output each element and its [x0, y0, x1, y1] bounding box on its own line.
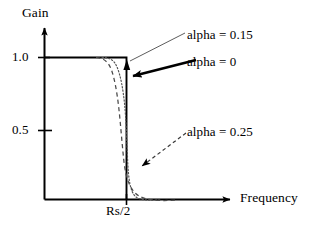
leader-line-group — [123, 33, 196, 166]
series-alpha-025 — [96, 58, 175, 201]
x-axis-title: Frequency — [240, 191, 298, 205]
series-alpha-015 — [102, 58, 160, 201]
figure-raised-cosine-gain: Gain Frequency 1.0 0.5 Rs/2 alpha = 0.15… — [0, 0, 326, 229]
x-tick-label-rs2: Rs/2 — [106, 204, 130, 217]
marker-arrowhead-wall-top — [123, 60, 130, 71]
annotation-alpha-0: alpha = 0 — [187, 55, 236, 68]
y-tick-label-1.0: 1.0 — [12, 50, 29, 63]
leader-alpha-015 — [130, 33, 185, 61]
annotation-alpha-025: alpha = 0.25 — [187, 125, 253, 138]
curve-alpha-015 — [102, 58, 160, 201]
annotation-alpha-015: alpha = 0.15 — [187, 28, 253, 41]
y-tick-label-0.5: 0.5 — [12, 123, 29, 136]
tick-mark-group — [38, 58, 127, 206]
y-axis-title: Gain — [22, 6, 49, 20]
leader-arrow-alpha-025 — [142, 133, 186, 166]
curve-alpha-025 — [96, 58, 175, 201]
